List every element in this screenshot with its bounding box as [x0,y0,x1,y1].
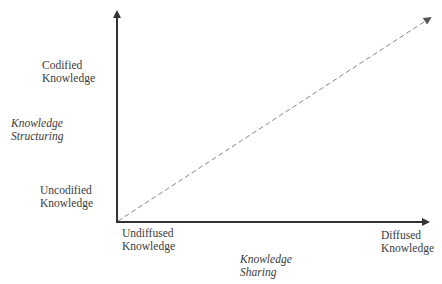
codified-knowledge-label: Codified Knowledge [42,59,95,85]
uncodified-knowledge-label: Uncodified Knowledge [40,184,93,210]
y-axis-title: Knowledge Structuring [11,117,63,143]
diffused-knowledge-label: Diffused Knowledge [381,229,434,255]
undiffused-knowledge-label: Undiffused Knowledge [122,227,175,253]
x-axis-title: Knowledge Sharing [240,253,292,279]
axes-diagram [0,0,442,284]
diagonal-dashed-line [118,18,430,221]
